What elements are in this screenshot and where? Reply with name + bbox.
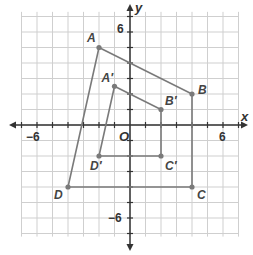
vertex-label: D′ [90,159,103,173]
vertex-point [65,184,70,189]
vertex-point [158,107,163,112]
y-tick-pos6: 6 [117,22,124,36]
vertex-label: A [86,31,96,45]
vertex-label: A′ [101,71,115,85]
vertex-label: C [197,188,206,202]
y-axis-arrow-down-icon [127,244,134,251]
vertex-point [96,45,101,50]
vertex-point [189,184,194,189]
x-axis-label: x [240,109,249,124]
vertex-point [158,153,163,158]
y-tick-neg6: −6 [108,211,122,225]
vertex-point [189,91,194,96]
y-axis-arrow-up-icon [127,4,134,11]
x-tick-pos6: 6 [219,130,226,144]
coordinate-plane: −6 6 6 −6 O x y ABCDA′B′C′D′ [0,0,253,255]
vertex-label: B′ [165,94,178,108]
x-tick-neg6: −6 [26,130,40,144]
vertex-label: C′ [165,159,178,173]
axes [9,4,248,251]
y-axis-label: y [134,0,143,15]
origin-label: O [119,129,129,144]
vertex-point [96,153,101,158]
vertex-label: D [54,188,63,202]
vertex-label: B [198,83,207,97]
x-axis-arrow-left-icon [9,122,16,129]
labels: −6 6 6 −6 O x y ABCDA′B′C′D′ [26,0,249,225]
